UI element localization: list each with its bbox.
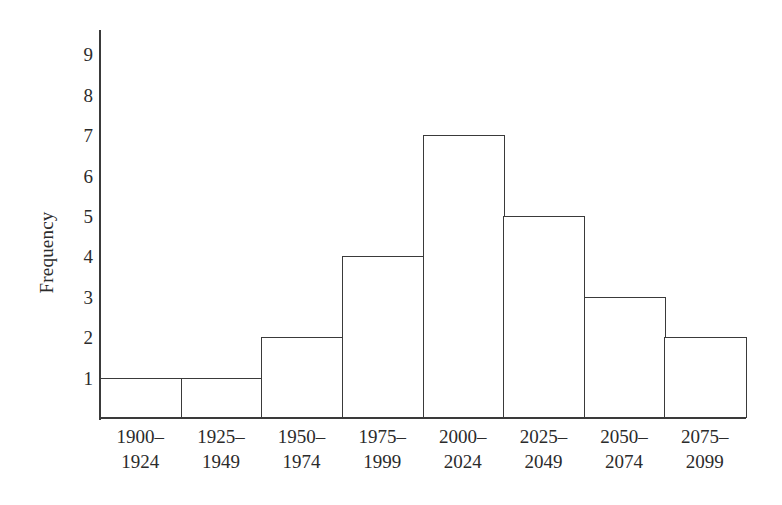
x-tick-label-line: 2049: [503, 449, 584, 474]
x-tick-label-line: 1949: [181, 449, 262, 474]
x-tick-label: 2050–2074: [584, 424, 665, 474]
y-axis-tick-labels: 123456789: [60, 0, 93, 505]
histogram-bars: [100, 30, 745, 418]
x-tick-label-line: 2024: [423, 449, 504, 474]
x-tick-label: 1925–1949: [181, 424, 262, 474]
x-tick-label-line: 1950–: [261, 424, 342, 449]
histogram-bar: [100, 378, 182, 418]
x-tick-label: 2075–2099: [664, 424, 745, 474]
y-axis-label: Frequency: [32, 0, 62, 505]
x-tick-label-line: 2050–: [584, 424, 665, 449]
x-tick-label-line: 2025–: [503, 424, 584, 449]
y-tick-label: 7: [65, 126, 93, 145]
x-tick-label-line: 2074: [584, 449, 665, 474]
histogram-bar: [181, 378, 263, 418]
y-tick-label: 3: [65, 288, 93, 307]
x-tick-label: 1900–1924: [100, 424, 181, 474]
y-tick-label: 4: [65, 247, 93, 266]
histogram-bar: [261, 337, 343, 418]
y-tick-label: 8: [65, 86, 93, 105]
x-tick-label-line: 1925–: [181, 424, 262, 449]
y-tick-label: 5: [65, 207, 93, 226]
histogram-bar: [423, 135, 505, 418]
y-tick-label: 2: [65, 328, 93, 347]
histogram-bar: [503, 216, 585, 418]
histogram-bar: [664, 337, 746, 418]
y-tick-label: 1: [65, 369, 93, 388]
histogram-bar: [584, 297, 666, 418]
x-tick-label: 2025–2049: [503, 424, 584, 474]
x-tick-label-line: 2000–: [423, 424, 504, 449]
y-tick-label: 6: [65, 167, 93, 186]
x-tick-label-line: 1900–: [100, 424, 181, 449]
x-tick-label-line: 1974: [261, 449, 342, 474]
x-axis-tick-labels: 1900–19241925–19491950–19741975–19992000…: [100, 424, 745, 494]
x-tick-label: 1975–1999: [342, 424, 423, 474]
x-tick-label: 1950–1974: [261, 424, 342, 474]
x-tick-label-line: 1999: [342, 449, 423, 474]
histogram-bar: [342, 256, 424, 418]
x-tick-label-line: 1924: [100, 449, 181, 474]
x-tick-label-line: 2099: [664, 449, 745, 474]
x-tick-label: 2000–2024: [423, 424, 504, 474]
y-tick-label: 9: [65, 45, 93, 64]
x-tick-label-line: 1975–: [342, 424, 423, 449]
histogram-figure: Frequency 123456789 1900–19241925–194919…: [0, 0, 782, 505]
x-tick-label-line: 2075–: [664, 424, 745, 449]
